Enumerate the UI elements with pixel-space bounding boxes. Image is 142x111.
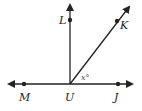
- label-j: J: [112, 91, 119, 104]
- point-l: [68, 18, 72, 22]
- label-m: M: [18, 91, 31, 104]
- angle-label-x: x°: [81, 73, 90, 82]
- point-m: [22, 82, 26, 86]
- label-k: K: [119, 19, 129, 32]
- point-j: [116, 82, 120, 86]
- label-u: U: [65, 91, 75, 104]
- geometry-diagram: L K M U J x°: [0, 0, 142, 111]
- point-k: [115, 19, 119, 23]
- label-l: L: [58, 14, 66, 27]
